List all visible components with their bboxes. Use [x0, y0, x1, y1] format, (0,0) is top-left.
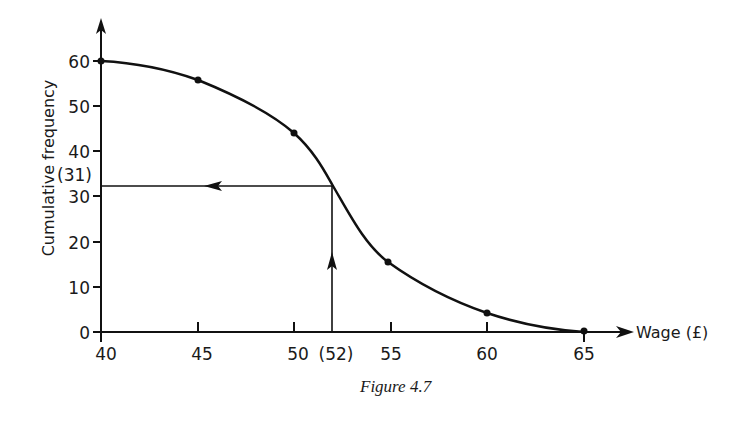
x-tick-label: 65 — [573, 344, 595, 364]
y-tick-label: 40 — [68, 142, 90, 162]
x-tick-label: 60 — [476, 344, 498, 364]
x-tick-label: 45 — [191, 344, 213, 364]
y-annotation-31: (31) — [57, 165, 92, 185]
y-tick-label: 50 — [68, 97, 90, 117]
y-axis-label: Cumulative frequency — [39, 80, 58, 257]
x-tick-label: 50 — [287, 344, 309, 364]
data-points — [98, 58, 588, 335]
x-annotation-52: (52) — [319, 344, 354, 364]
y-ticks — [93, 61, 101, 332]
x-axis-label: Wage (£) — [636, 323, 708, 342]
y-tick-label: 60 — [68, 52, 90, 72]
y-tick-label: 20 — [68, 233, 90, 253]
ogive-chart: 0 10 20 30 40 50 60 (31) 40 45 50 (52) 5… — [0, 0, 755, 422]
x-tick-label: 55 — [380, 344, 402, 364]
y-tick-label: 0 — [79, 323, 90, 343]
figure-caption: Figure 4.7 — [359, 377, 433, 396]
y-tick-label: 30 — [68, 187, 90, 207]
y-tick-label: 10 — [68, 278, 90, 298]
x-tick-label: 40 — [95, 344, 117, 364]
ogive-curve — [101, 61, 584, 332]
